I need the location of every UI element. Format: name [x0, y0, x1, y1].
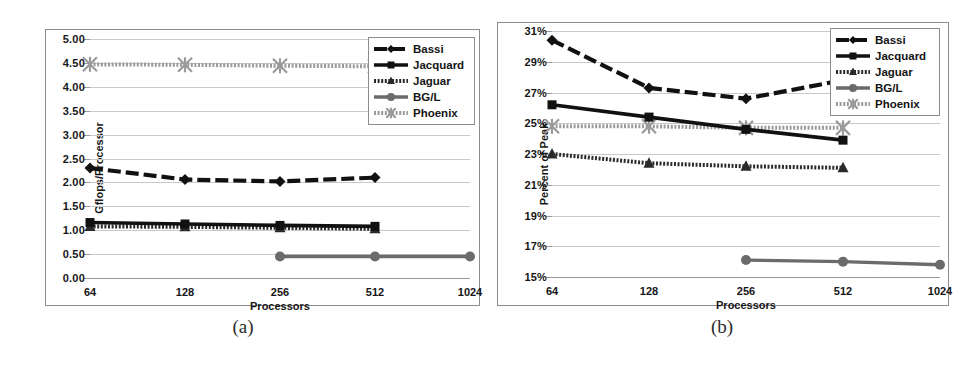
legend-label: BG/L	[875, 81, 902, 95]
legend-label: Jacquard	[413, 58, 464, 72]
y-tick-label: 17%	[524, 240, 547, 252]
y-axis-title-b: Percent of Peak	[538, 123, 550, 206]
x-tick-label: 128	[176, 286, 194, 298]
series-line-jaguar	[90, 226, 375, 228]
series-markers-jaguar	[85, 220, 381, 233]
y-gridline	[552, 154, 940, 155]
x-axis-title-b: Processors	[716, 299, 776, 311]
y-tick-label: 2.00	[63, 176, 85, 188]
chart-panel-a: Gflops/Processor Processors 0.000.501.00…	[45, 29, 480, 306]
y-tick-label: 27%	[524, 87, 547, 99]
x-axis-title-a: Processors	[250, 300, 310, 312]
y-gridline	[552, 216, 940, 217]
y-gridline	[90, 206, 470, 207]
legend-label: BG/L	[413, 90, 440, 104]
y-gridline	[552, 246, 940, 247]
legend-label: Bassi	[413, 42, 444, 56]
triangle-marker-icon	[835, 65, 871, 79]
y-tick-label: 0.00	[63, 272, 85, 284]
y-tick-label: 5.00	[63, 33, 85, 45]
legend-item-bgl[interactable]: BG/L	[835, 80, 934, 96]
y-tick-label: 1.00	[63, 224, 85, 236]
diamond-marker-icon	[373, 42, 409, 56]
legend-item-jaguar[interactable]: Jaguar	[835, 64, 934, 80]
legend-item-bgl[interactable]: BG/L	[373, 89, 469, 105]
x-tick-label: 1024	[928, 285, 952, 297]
legend-item-phoenix[interactable]: Phoenix	[373, 105, 469, 121]
series-markers-bassi	[547, 35, 849, 104]
legend-label: Jacquard	[875, 49, 926, 63]
legend-item-jacquard[interactable]: Jacquard	[373, 57, 469, 73]
series-markers-bgl	[275, 251, 475, 261]
x-tick-label: 64	[546, 285, 558, 297]
series-line-jacquard	[90, 223, 375, 227]
chart-legend-a: BassiJacquardJaguarBG/LPhoenix	[368, 37, 475, 125]
y-gridline	[90, 278, 470, 279]
square-marker-icon	[373, 58, 409, 72]
series-line-phoenix	[90, 64, 375, 66]
legend-label: Bassi	[875, 33, 906, 47]
y-gridline	[552, 277, 940, 278]
asterisk-marker-icon	[373, 106, 409, 120]
y-tick-label: 23%	[524, 148, 547, 160]
legend-label: Phoenix	[413, 106, 458, 120]
y-gridline	[90, 182, 470, 183]
legend-label: Phoenix	[875, 97, 920, 111]
legend-label: Jaguar	[875, 65, 913, 79]
diamond-marker-icon	[835, 33, 871, 47]
legend-item-bassi[interactable]: Bassi	[835, 32, 934, 48]
y-tick-label: 4.50	[63, 57, 85, 69]
x-tick-label: 512	[366, 286, 384, 298]
legend-item-phoenix[interactable]: Phoenix	[835, 96, 934, 112]
circle-marker-icon	[373, 90, 409, 104]
series-line-bassi	[552, 40, 843, 98]
x-tick-label: 256	[737, 285, 755, 297]
series-markers-phoenix	[83, 57, 382, 74]
y-tick-label: 29%	[524, 56, 547, 68]
series-line-jaguar	[552, 154, 843, 168]
chart-panel-b: Percent of Peak Processors 15%17%19%21%2…	[497, 22, 949, 306]
legend-item-bassi[interactable]: Bassi	[373, 41, 469, 57]
series-line-bgl	[746, 260, 940, 265]
y-tick-label: 25%	[524, 117, 547, 129]
y-tick-label: 19%	[524, 210, 547, 222]
series-markers-jaguar	[547, 148, 849, 172]
y-tick-label: 2.50	[63, 153, 85, 165]
series-markers-bgl	[741, 255, 945, 270]
square-marker-icon	[835, 49, 871, 63]
y-gridline	[90, 135, 470, 136]
y-tick-label: 3.50	[63, 105, 85, 117]
y-tick-label: 31%	[524, 25, 547, 37]
series-markers-phoenix	[545, 119, 850, 136]
subfigure-caption-b: (b)	[711, 316, 733, 338]
y-gridline	[90, 159, 470, 160]
x-tick-label: 512	[834, 285, 852, 297]
subfigure-caption-a: (a)	[232, 316, 253, 338]
asterisk-marker-icon	[835, 97, 871, 111]
x-tick-label: 1024	[458, 286, 482, 298]
legend-label: Jaguar	[413, 74, 451, 88]
y-gridline	[90, 230, 470, 231]
y-tick-label: 1.50	[63, 200, 85, 212]
subfigure-caption-row: (a) (b)	[0, 312, 973, 358]
y-tick-label: 3.00	[63, 129, 85, 141]
triangle-marker-icon	[373, 74, 409, 88]
y-tick-label: 21%	[524, 179, 547, 191]
series-line-bassi	[90, 168, 375, 181]
x-tick-label: 64	[84, 286, 96, 298]
y-tick-label: 0.50	[63, 248, 85, 260]
x-tick-label: 256	[271, 286, 289, 298]
series-markers-jacquard	[86, 218, 380, 231]
x-tick-label: 128	[640, 285, 658, 297]
chart-legend-b: BassiJacquardJaguarBG/LPhoenix	[830, 28, 940, 116]
legend-item-jaguar[interactable]: Jaguar	[373, 73, 469, 89]
y-gridline	[552, 123, 940, 124]
y-gridline	[552, 185, 940, 186]
y-tick-label: 15%	[524, 271, 547, 283]
series-line-phoenix	[552, 126, 843, 128]
figure-root: Gflops/Processor Processors 0.000.501.00…	[0, 0, 973, 367]
circle-marker-icon	[835, 81, 871, 95]
legend-item-jacquard[interactable]: Jacquard	[835, 48, 934, 64]
y-tick-label: 4.00	[63, 81, 85, 93]
y-gridline	[90, 254, 470, 255]
